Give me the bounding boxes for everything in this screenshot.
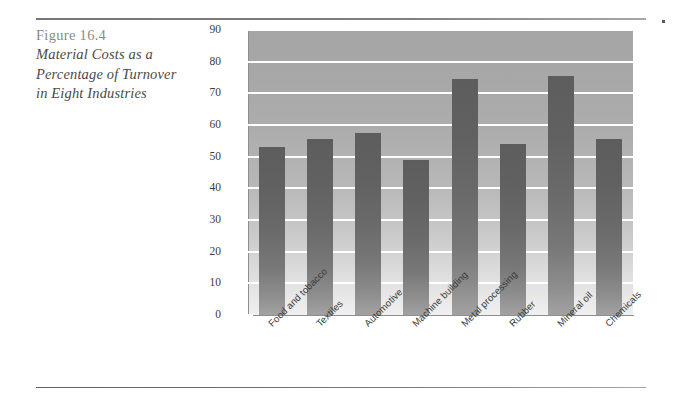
y-axis-label: 40: [181, 181, 221, 193]
y-axis-label: 30: [181, 213, 221, 225]
gridline: [248, 251, 633, 253]
gridline: [248, 92, 633, 94]
y-axis-line: [248, 30, 249, 316]
bottom-rule: [36, 387, 646, 388]
bar-chart: 0102030405060708090 Food and tobaccoText…: [222, 26, 642, 326]
bar: [596, 139, 622, 315]
figure-title: Material Costs as a Percentage of Turnov…: [36, 45, 186, 104]
y-axis-label: 20: [181, 245, 221, 257]
figure-title-line-2: Percentage of Turnover: [36, 65, 186, 85]
gridline: [248, 156, 633, 158]
gridline: [248, 61, 633, 63]
y-axis-tick: [248, 29, 253, 31]
y-axis-label: 0: [181, 308, 221, 320]
y-axis-label: 50: [181, 150, 221, 162]
y-axis-tick: [248, 61, 253, 63]
gridline: [248, 187, 633, 189]
y-axis-tick: [248, 92, 253, 94]
figure-page: Figure 16.4 Material Costs as a Percenta…: [0, 0, 674, 409]
y-axis-label: 80: [181, 55, 221, 67]
y-axis-label: 70: [181, 86, 221, 98]
bar: [355, 133, 381, 315]
y-axis-tick: [248, 156, 253, 158]
y-axis-tick: [248, 282, 253, 284]
bar: [548, 76, 574, 315]
y-axis-label: 90: [181, 23, 221, 35]
figure-title-line-3: in Eight Industries: [36, 84, 186, 104]
gridline: [248, 219, 633, 221]
top-rule: [36, 18, 646, 20]
y-axis-tick: [248, 219, 253, 221]
gridline: [248, 124, 633, 126]
bar: [403, 160, 429, 315]
gridline: [248, 29, 633, 31]
y-axis-tick: [248, 314, 253, 316]
corner-marker: [662, 20, 665, 23]
figure-title-line-1: Material Costs as a: [36, 45, 186, 65]
plot-area: [248, 30, 633, 315]
y-axis-tick: [248, 187, 253, 189]
y-axis-tick: [248, 251, 253, 253]
y-axis-label: 60: [181, 118, 221, 130]
bar: [259, 147, 285, 315]
y-axis-tick: [248, 124, 253, 126]
y-axis-label: 10: [181, 276, 221, 288]
